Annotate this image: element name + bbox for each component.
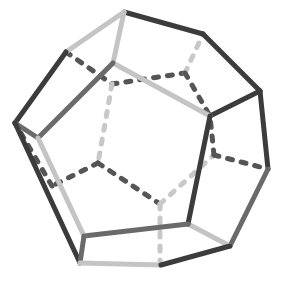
edge-LM: [80, 263, 161, 265]
edge-BC: [203, 34, 260, 91]
edge-RS: [160, 155, 214, 204]
edge-CD: [210, 91, 260, 116]
edge-JD: [188, 116, 210, 224]
edge-MN: [161, 246, 230, 265]
edge-AB: [124, 12, 203, 34]
edge-LK: [80, 236, 84, 263]
edge-PB: [185, 34, 203, 73]
edge-TQ: [98, 84, 112, 163]
edge-NJ: [188, 224, 230, 246]
edge-QR: [98, 163, 160, 204]
edge-CI: [260, 91, 268, 169]
dodecahedron-figure: Dodecahedron wireframe: [0, 0, 283, 283]
edge-GL: [15, 123, 80, 263]
edge-FG: [15, 52, 66, 123]
edge-SI: [214, 155, 268, 169]
dodecahedron-wireframe: [0, 0, 283, 283]
edge-JK: [84, 224, 188, 236]
edge-IN: [230, 169, 268, 246]
visible-edges: [15, 12, 268, 265]
